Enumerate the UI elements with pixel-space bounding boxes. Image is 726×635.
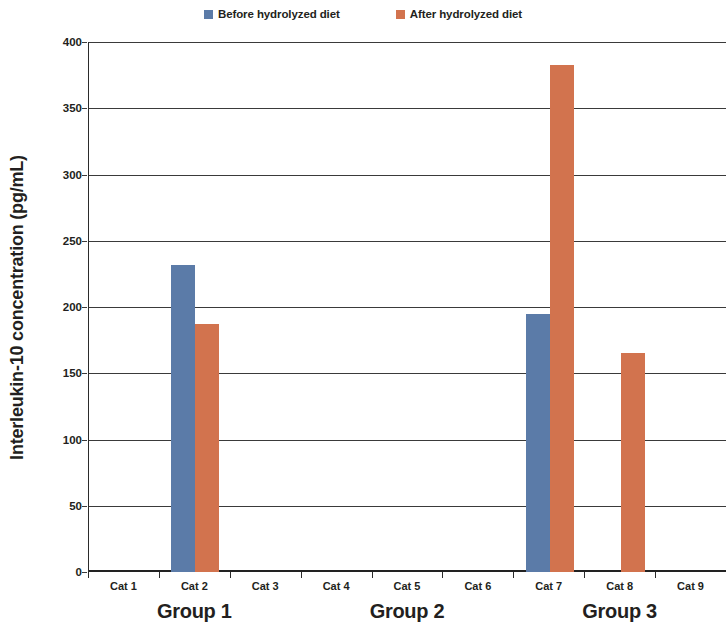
x-axis-tick-mark — [442, 572, 443, 578]
x-axis-tick-label: Cat 5 — [394, 580, 421, 592]
bar-chart: Before hydrolyzed diet After hydrolyzed … — [0, 0, 726, 635]
y-axis-tick-label: 150 — [63, 367, 82, 379]
bar — [621, 353, 645, 572]
bar — [171, 265, 195, 572]
y-axis-title: Interleukin-10 concentration (pg/mL) — [7, 155, 28, 460]
x-axis-tick-label: Cat 2 — [181, 580, 208, 592]
x-axis-tick-mark — [159, 572, 160, 578]
y-axis-title-container: Interleukin-10 concentration (pg/mL) — [0, 42, 34, 572]
y-axis-tick-label: 50 — [69, 500, 82, 512]
y-axis-tick-label: 300 — [63, 169, 82, 181]
gridline — [89, 108, 726, 109]
x-axis-tick-label: Cat 9 — [677, 580, 704, 592]
y-axis-tick-label: 350 — [63, 102, 82, 114]
x-axis-tick-mark — [88, 572, 89, 578]
x-axis-tick-mark — [513, 572, 514, 578]
x-axis-tick-mark — [372, 572, 373, 578]
bar — [195, 324, 219, 572]
y-axis-tick-mark — [82, 572, 87, 573]
y-axis-tick-mark — [82, 506, 87, 507]
group-label: Group 3 — [582, 600, 657, 623]
bar — [526, 314, 550, 572]
gridline — [89, 42, 726, 43]
y-axis-tick-mark — [82, 108, 87, 109]
gridline — [89, 241, 726, 242]
legend-label-after: After hydrolyzed diet — [410, 8, 522, 20]
x-axis-tick-label: Cat 1 — [110, 580, 137, 592]
x-axis-tick-mark — [301, 572, 302, 578]
chart-legend: Before hydrolyzed diet After hydrolyzed … — [0, 4, 726, 24]
y-axis-tick-mark — [82, 440, 87, 441]
y-axis-tick-label: 400 — [63, 36, 82, 48]
bar — [550, 65, 574, 572]
x-axis-tick-label: Cat 7 — [535, 580, 562, 592]
group-labels: Group 1Group 2Group 3 — [88, 600, 726, 634]
x-axis-tick-mark — [655, 572, 656, 578]
y-axis-tick-label: 100 — [63, 434, 82, 446]
legend-swatch-after-icon — [396, 10, 405, 19]
x-axis-tick-mark — [230, 572, 231, 578]
legend-label-before: Before hydrolyzed diet — [218, 8, 340, 20]
x-axis-tick-label: Cat 6 — [464, 580, 491, 592]
x-axis-tick-label: Cat 3 — [252, 580, 279, 592]
legend-entry-after: After hydrolyzed diet — [396, 8, 522, 20]
x-axis-tick-labels: Cat 1Cat 2Cat 3Cat 4Cat 5Cat 6Cat 7Cat 8… — [88, 580, 726, 598]
legend-swatch-before-icon — [204, 10, 213, 19]
legend-entry-before: Before hydrolyzed diet — [204, 8, 340, 20]
y-axis-tick-mark — [82, 42, 87, 43]
x-axis-tick-label: Cat 8 — [606, 580, 633, 592]
gridline — [89, 175, 726, 176]
y-axis-tick-mark — [82, 307, 87, 308]
y-axis-tick-label: 250 — [63, 235, 82, 247]
group-label: Group 2 — [370, 600, 445, 623]
group-label: Group 1 — [157, 600, 232, 623]
y-axis-tick-label: 200 — [63, 301, 82, 313]
x-axis-tick-label: Cat 4 — [323, 580, 350, 592]
y-axis-tick-mark — [82, 175, 87, 176]
plot-area — [88, 42, 726, 572]
y-axis-tick-mark — [82, 241, 87, 242]
x-axis-ticks — [88, 572, 726, 580]
y-axis-tick-labels: 050100150200250300350400 — [40, 42, 82, 572]
x-axis-tick-mark — [584, 572, 585, 578]
y-axis-tick-mark — [82, 373, 87, 374]
